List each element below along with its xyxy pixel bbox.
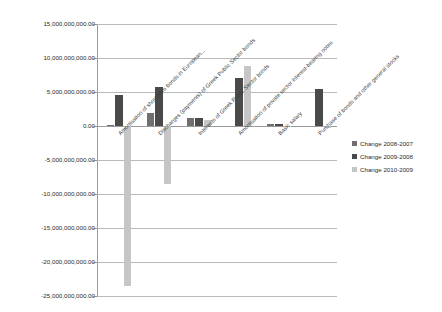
y-axis-tick-label: 5,000,000,000.00 <box>3 89 95 95</box>
legend: Change 2008-2007Change 2009-2008Change 2… <box>352 137 440 176</box>
legend-label: Change 2010-2009 <box>360 166 413 173</box>
gridline <box>97 228 337 229</box>
bar <box>147 113 155 126</box>
plot-area <box>97 24 337 296</box>
legend-swatch <box>352 141 357 146</box>
bar <box>187 118 195 126</box>
bar <box>267 124 275 126</box>
bar <box>315 89 323 126</box>
bar <box>115 95 123 126</box>
y-axis-tick-label: -25,000,000,000.00 <box>3 293 95 299</box>
gridline <box>97 262 337 263</box>
bar <box>164 126 172 184</box>
y-axis-tick-label: 0.00 <box>3 123 95 129</box>
gridline <box>97 24 337 25</box>
gridline <box>97 194 337 195</box>
legend-swatch <box>352 154 357 159</box>
gridline <box>97 58 337 59</box>
bar-chart: 15,000,000,000.0010,000,000,000.005,000,… <box>0 0 442 312</box>
y-axis-tick-label: 15,000,000,000.00 <box>3 21 95 27</box>
legend-item[interactable]: Change 2009-2008 <box>352 150 440 163</box>
y-axis-tick-label: -15,000,000,000.00 <box>3 225 95 231</box>
y-axis-tick-label: 10,000,000,000.00 <box>3 55 95 61</box>
legend-label: Change 2009-2008 <box>360 153 413 160</box>
bar <box>107 125 115 126</box>
legend-label: Change 2008-2007 <box>360 140 413 147</box>
gridline <box>97 92 337 93</box>
gridline <box>97 296 337 297</box>
y-axis-tick-label: -20,000,000,000.00 <box>3 259 95 265</box>
y-axis-tick-label: -5,000,000,000.00 <box>3 157 95 163</box>
y-axis: 15,000,000,000.0010,000,000,000.005,000,… <box>0 0 95 312</box>
y-axis-tick-label: -10,000,000,000.00 <box>3 191 95 197</box>
legend-swatch <box>352 167 357 172</box>
bar <box>195 118 203 126</box>
gridline <box>97 160 337 161</box>
legend-item[interactable]: Change 2008-2007 <box>352 137 440 150</box>
bar <box>124 126 132 286</box>
bar <box>244 66 252 126</box>
zero-line <box>97 126 337 127</box>
legend-item[interactable]: Change 2010-2009 <box>352 163 440 176</box>
